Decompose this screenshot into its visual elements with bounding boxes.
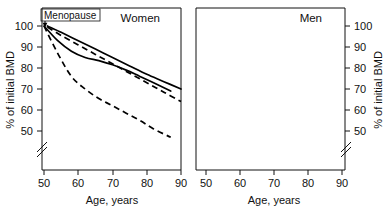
left-x-tick-90: 90 (175, 177, 187, 189)
left-y-tick-100: 100 (15, 20, 33, 32)
left-x-ticks (44, 170, 181, 175)
left-x-tick-60: 60 (72, 177, 84, 189)
left-y-tick-90: 90 (21, 41, 33, 53)
men-solid-curve (47, 26, 181, 89)
left-panel-title: Women (121, 12, 160, 24)
right-y-ticks (345, 26, 350, 131)
left-x-tick-70: 70 (107, 177, 119, 189)
women-solid-curve (44, 26, 171, 91)
left-x-tick-50: 50 (38, 177, 50, 189)
right-x-tick-70: 70 (268, 177, 280, 189)
menopause-annotation-label: Menopause (44, 10, 97, 21)
men-dashed-curve (47, 27, 181, 102)
right-y-tick-50: 50 (354, 125, 366, 137)
right-x-tick-90: 90 (336, 177, 348, 189)
left-y-axis-title: % of initial BMD (4, 51, 16, 129)
right-y-tick-60: 60 (354, 104, 366, 116)
right-y-axis-break-icon (341, 142, 351, 157)
right-y-tick-70: 70 (354, 83, 366, 95)
left-x-tick-80: 80 (141, 177, 153, 189)
right-y-axis-title: % of initial BMD (372, 51, 384, 129)
right-x-tick-80: 80 (302, 177, 314, 189)
right-y-tick-100: 100 (354, 20, 372, 32)
right-x-axis-title: Age, years (248, 194, 301, 206)
left-y-tick-70: 70 (21, 83, 33, 95)
left-y-ticks (37, 26, 42, 131)
left-panel-women: 100 90 80 70 60 50 % of initial BMD 50 6… (4, 8, 187, 206)
right-y-tick-90: 90 (354, 41, 366, 53)
right-x-tick-60: 60 (234, 177, 246, 189)
right-plot-frame (196, 8, 345, 170)
right-x-ticks (206, 170, 342, 175)
left-x-axis-title: Age, years (86, 194, 139, 206)
bmd-age-figure: 100 90 80 70 60 50 % of initial BMD 50 6… (0, 0, 388, 211)
left-y-tick-60: 60 (21, 104, 33, 116)
right-panel-men: 100 90 80 70 60 50 % of initial BMD 50 6… (47, 8, 384, 206)
left-y-tick-80: 80 (21, 62, 33, 74)
right-x-tick-50: 50 (200, 177, 212, 189)
left-y-tick-50: 50 (21, 125, 33, 137)
right-panel-title: Men (300, 12, 322, 24)
right-y-tick-80: 80 (354, 62, 366, 74)
